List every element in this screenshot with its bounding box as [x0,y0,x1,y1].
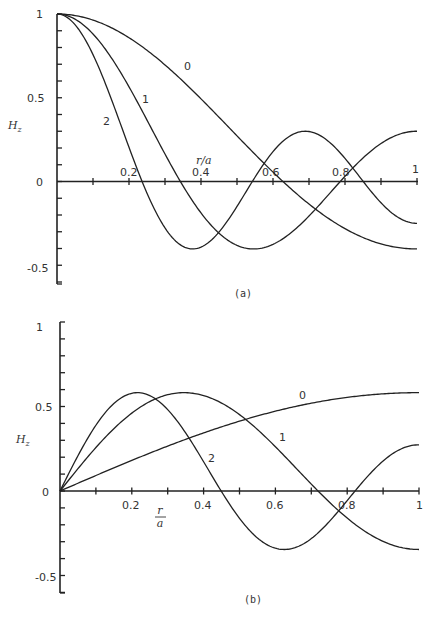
panel-a-xtick-label-0.4: 0.4 [192,166,210,179]
panel-b-ytick-label-neg0.5: -0.5 [35,571,56,584]
figure: 1 0.5 0 -0.5 0.2 0.4 0.6 0.8 1 r/a Hz 0 … [0,0,432,621]
curve-mode-1 [60,393,419,550]
panel-a-caption: (a) [234,288,252,299]
panel-a-curve-label-2: 2 [103,115,110,128]
panel-a-curve-label-0: 0 [184,60,191,73]
curve-mode-2 [60,393,419,550]
panel-b-chart: 1 0.5 0 -0.5 0.2 0.4 0.6 0.8 1 r a Hz 0 … [15,321,423,605]
panel-b-xtick-label-0.4: 0.4 [194,499,212,512]
panel-b-xtick-label-0.6: 0.6 [266,499,284,512]
panel-a-xtick-label-0.6: 0.6 [262,166,280,179]
panel-b-ytick-label-0: 0 [42,486,49,499]
panel-b-xtick-label-1: 1 [416,499,423,512]
panel-a-xtick-label-1: 1 [412,163,419,176]
panel-b-caption: (b) [244,594,262,605]
panel-a-x-axis-title: r/a [196,154,212,167]
panel-a-xtick-label-0.8: 0.8 [332,166,350,179]
curve-mode-2 [57,14,417,249]
panel-a-xtick-label-0.2: 0.2 [120,166,138,179]
panel-b-xtick-label-0.2: 0.2 [122,499,140,512]
panel-b-y-axis-title: Hz [15,433,31,448]
panel-a-ytick-label-1: 1 [36,8,43,21]
svg-text:r: r [157,504,163,517]
curve-mode-1 [57,14,417,249]
panel-b-curve-label-2: 2 [208,452,215,465]
panel-b-x-axis-title: r a [155,504,166,530]
panel-a-ytick-label-0.5: 0.5 [27,92,45,105]
panel-a-y-axis-title: Hz [7,119,23,134]
panel-b-ytick-label-0.5: 0.5 [35,401,53,414]
panel-b-ytick-label-1: 1 [36,321,43,334]
panel-a-curves [57,14,417,249]
panel-a-ytick-label-0: 0 [36,176,43,189]
panel-a-curve-label-1: 1 [142,93,149,106]
panel-b-curve-label-0: 0 [299,389,306,402]
panel-a-chart: 1 0.5 0 -0.5 0.2 0.4 0.6 0.8 1 r/a Hz 0 … [7,8,419,299]
svg-text:a: a [157,517,164,530]
panel-b-curves [60,393,419,550]
panel-b-curve-label-1: 1 [279,431,286,444]
curve-mode-0 [60,393,419,491]
panel-a-ytick-label-neg0.5: -0.5 [27,262,48,275]
curve-mode-0 [57,14,417,249]
